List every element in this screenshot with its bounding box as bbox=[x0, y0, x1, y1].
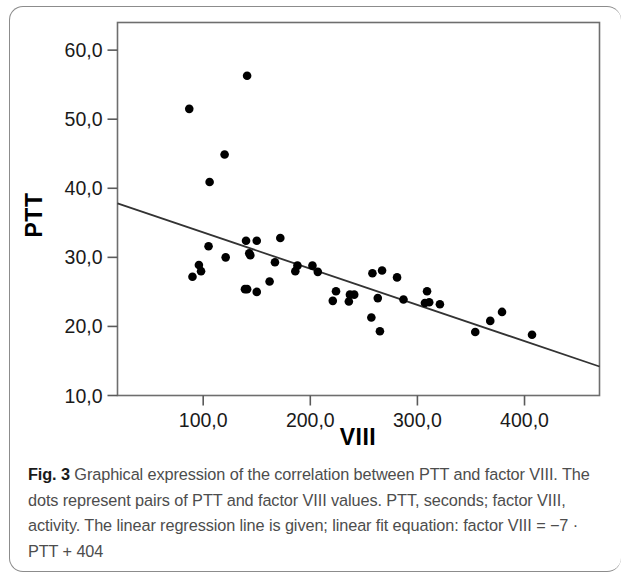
scatter-point: VIII 186, PTT 28 bbox=[291, 267, 300, 276]
scatter-point: VIII 281, PTT 27.1 bbox=[393, 273, 402, 282]
y-tick-label: 50,0 bbox=[65, 108, 103, 130]
scatter-point: VIII 106, PTT 40.9 bbox=[205, 178, 214, 187]
y-tick-label: 10,0 bbox=[65, 385, 103, 407]
scatter-point: VIII 162, PTT 26.5 bbox=[265, 277, 274, 286]
scatter-point: VIII 221, PTT 23.7 bbox=[328, 297, 337, 306]
scatter-point: VIII 140, PTT 32.4 bbox=[242, 236, 251, 245]
scatter-point: VIII 258, PTT 27.7 bbox=[368, 269, 377, 278]
scatter-point: VIII 379, PTT 22.1 bbox=[498, 308, 507, 317]
x-axis-ticks bbox=[203, 396, 524, 406]
scatter-point: VIII 354, PTT 19.2 bbox=[471, 328, 480, 337]
scatter-point: VIII 98, PTT 28 bbox=[197, 267, 206, 276]
y-tick-label: 30,0 bbox=[65, 246, 103, 268]
x-tick-label: 200,0 bbox=[286, 409, 335, 431]
scatter-point: VIII 207, PTT 27.9 bbox=[313, 268, 322, 277]
scatter-point: VIII 263, PTT 24.1 bbox=[373, 294, 382, 303]
scatter-point: VIII 321, PTT 23.2 bbox=[436, 300, 445, 309]
scatter-plot-region: 10,020,030,040,050,060,0 100,0200,0300,0… bbox=[0, 0, 617, 452]
figure-caption: Fig. 3 Graphical expression of the corre… bbox=[28, 462, 594, 564]
y-tick-label: 40,0 bbox=[65, 177, 103, 199]
scatter-point: VIII 120, PTT 44.9 bbox=[220, 150, 229, 159]
scatter-point: VIII 150, PTT 25 bbox=[252, 288, 261, 297]
x-axis-title: VIII bbox=[340, 424, 377, 450]
y-axis-ticks bbox=[108, 50, 118, 395]
scatter-point: VIII 90, PTT 27.2 bbox=[188, 272, 197, 281]
scatter-point: VIII 167, PTT 29.3 bbox=[271, 258, 280, 267]
figure-label: Fig. 3 bbox=[28, 465, 70, 483]
y-axis-tick-labels: 10,020,030,040,050,060,0 bbox=[65, 39, 103, 406]
scatter-point: VIII 141, PTT 56.3 bbox=[243, 71, 252, 80]
y-tick-label: 20,0 bbox=[65, 315, 103, 337]
scatter-point: VIII 224, PTT 25.1 bbox=[332, 287, 341, 296]
scatter-point: VIII 257, PTT 21.3 bbox=[367, 313, 376, 322]
y-tick-label: 60,0 bbox=[65, 39, 103, 61]
scatter-point: VIII 267, PTT 28.1 bbox=[378, 266, 387, 275]
scatter-point: VIII 309, PTT 25.1 bbox=[423, 287, 432, 296]
figure-caption-text: Graphical expression of the correlation … bbox=[28, 465, 590, 560]
scatter-point: VIII 236, PTT 23.6 bbox=[345, 297, 354, 306]
scatter-point: VIII 311, PTT 23.5 bbox=[425, 298, 434, 307]
scatter-point: VIII 87, PTT 51.5 bbox=[185, 105, 194, 114]
scatter-point: VIII 141, PTT 25.4 bbox=[243, 285, 252, 294]
scatter-point: VIII 407, PTT 18.8 bbox=[528, 330, 537, 339]
scatter-point: VIII 368, PTT 20.8 bbox=[486, 317, 495, 326]
x-tick-label: 300,0 bbox=[393, 409, 442, 431]
x-tick-label: 400,0 bbox=[500, 409, 549, 431]
y-axis-title: PTT bbox=[21, 193, 47, 238]
scatter-plot-svg: 10,020,030,040,050,060,0 100,0200,0300,0… bbox=[0, 0, 617, 452]
scatter-point: VIII 121, PTT 30 bbox=[221, 253, 230, 262]
scatter-point: VIII 105, PTT 31.6 bbox=[204, 242, 213, 251]
scatter-point: VIII 144, PTT 30.3 bbox=[246, 251, 255, 260]
scatter-point: VIII 172, PTT 32.8 bbox=[276, 234, 285, 243]
plot-frame bbox=[118, 23, 600, 396]
scatter-point: VIII 241, PTT 24.6 bbox=[350, 290, 359, 299]
scatter-point: VIII 265, PTT 19.3 bbox=[376, 327, 385, 336]
scatter-point: VIII 287, PTT 23.9 bbox=[399, 295, 408, 304]
x-tick-label: 100,0 bbox=[179, 409, 228, 431]
scatter-point: VIII 150, PTT 32.4 bbox=[252, 236, 261, 245]
